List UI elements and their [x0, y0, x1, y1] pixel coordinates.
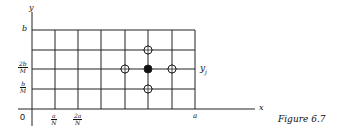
x-tick-a-over-n: a N: [51, 113, 57, 126]
x-tick-2a-over-n: 2a N: [73, 113, 82, 126]
x-end-label: a: [193, 113, 197, 120]
y-tick-2b-over-m: 2b M: [18, 61, 28, 74]
y-axis-label: y: [29, 4, 34, 12]
y-end-label: b: [22, 25, 27, 33]
figure-caption: Figure 6.7: [278, 114, 325, 124]
y-tick-b-over-m: b M: [20, 81, 26, 94]
origin-label: 0: [20, 112, 25, 122]
row-label-yj: yj: [200, 64, 207, 75]
center-node-filled: [144, 65, 152, 73]
x-axis-label: x: [259, 104, 264, 112]
